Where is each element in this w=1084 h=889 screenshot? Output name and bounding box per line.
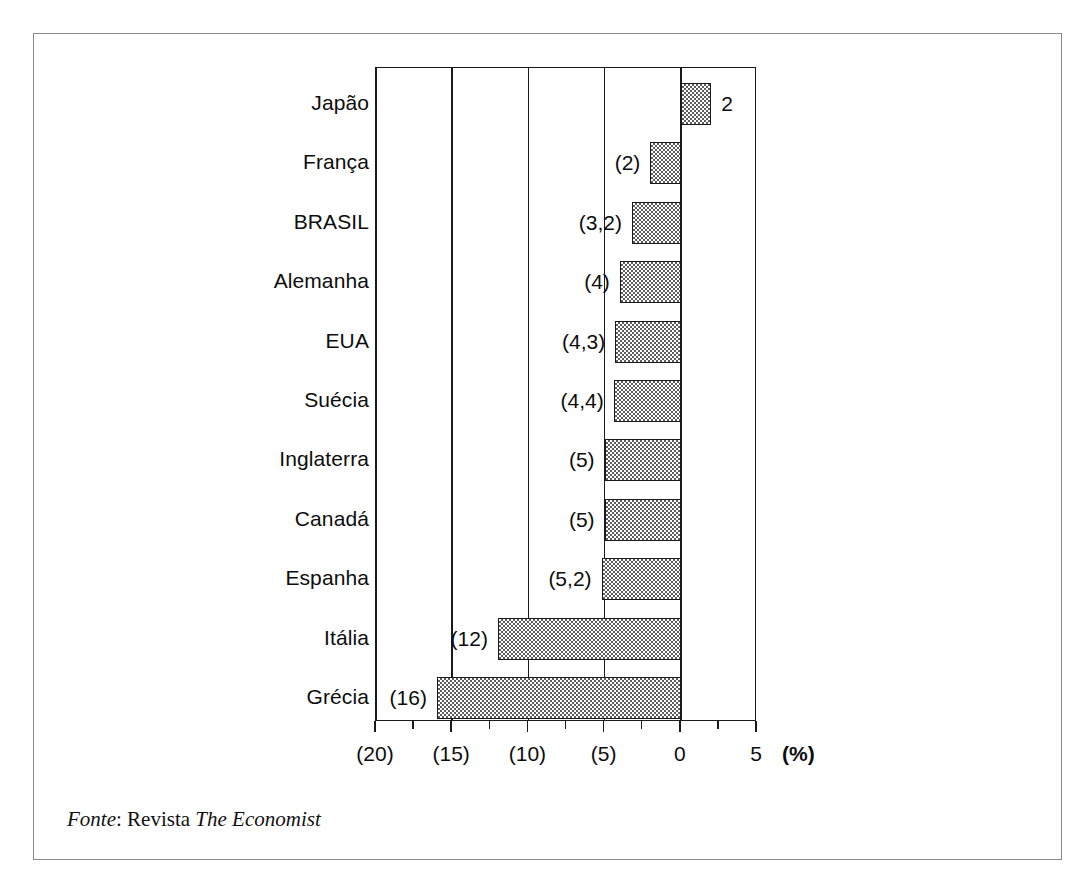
source-publisher: Revista (127, 807, 195, 831)
x-tick-major-20 (374, 721, 376, 732)
x-tick-label-15: (15) (433, 742, 470, 766)
bar-itália (498, 618, 681, 660)
x-tick-minor (489, 721, 491, 729)
x-tick-label-10: (10) (509, 742, 546, 766)
bar-alemanha (620, 261, 681, 303)
x-tick-major-5 (755, 721, 757, 732)
figure-frame: JapãoFrançaBRASILAlemanhaEUASuéciaInglat… (33, 33, 1062, 860)
bar-canadá (605, 499, 681, 541)
bar-eua (615, 321, 681, 363)
x-tick-major-15 (450, 721, 452, 732)
category-label-alemanha: Alemanha (274, 269, 369, 293)
source-separator: : (116, 807, 127, 831)
bar-value-itália: (12) (451, 627, 488, 651)
bar-suécia (614, 380, 681, 422)
x-tick-major-10 (527, 721, 529, 732)
x-tick-label-0: 0 (674, 742, 686, 766)
category-label-brasil: BRASIL (294, 210, 369, 234)
x-tick-minor (565, 721, 567, 729)
gridline-20 (375, 68, 377, 720)
source-label: Fonte (67, 807, 116, 831)
bar-espanha (602, 558, 681, 600)
bar-frança (650, 142, 680, 184)
category-label-frança: França (303, 150, 369, 174)
category-label-inglaterra: Inglaterra (279, 447, 369, 471)
gridline-15 (451, 68, 453, 720)
bar-value-eua: (4,3) (562, 330, 605, 354)
bar-brasil (632, 202, 681, 244)
x-tick-minor (641, 721, 643, 729)
bar-value-suécia: (4,4) (561, 389, 604, 413)
category-axis-labels: JapãoFrançaBRASILAlemanhaEUASuéciaInglat… (34, 34, 369, 861)
bar-grécia (437, 677, 681, 719)
x-tick-label-5: 5 (750, 742, 762, 766)
bar-value-japão: 2 (721, 92, 733, 116)
source-publication: The Economist (195, 807, 320, 831)
bar-value-alemanha: (4) (584, 270, 610, 294)
x-tick-label-20: (20) (356, 742, 393, 766)
category-label-eua: EUA (326, 329, 369, 353)
bar-japão (681, 83, 711, 125)
category-label-canadá: Canadá (295, 507, 369, 531)
x-tick-major-5 (603, 721, 605, 732)
bar-value-canadá: (5) (569, 508, 595, 532)
axis-unit-label: (%) (782, 742, 815, 766)
category-label-suécia: Suécia (304, 388, 369, 412)
category-label-espanha: Espanha (285, 566, 369, 590)
bar-value-espanha: (5,2) (548, 567, 591, 591)
x-tick-major-0 (679, 721, 681, 732)
category-label-japão: Japão (311, 91, 369, 115)
bar-value-frança: (2) (615, 151, 641, 175)
bar-inglaterra (605, 439, 681, 481)
bar-value-grécia: (16) (390, 686, 427, 710)
x-tick-minor (717, 721, 719, 729)
plot-area: 2(2)(3,2)(4)(4,3)(4,4)(5)(5)(5,2)(12)(16… (375, 67, 756, 721)
x-tick-minor (412, 721, 414, 729)
source-note: Fonte: Revista The Economist (67, 807, 321, 832)
x-tick-label-5: (5) (591, 742, 617, 766)
bar-value-inglaterra: (5) (569, 448, 595, 472)
category-label-grécia: Grécia (307, 685, 369, 709)
bar-value-brasil: (3,2) (579, 211, 622, 235)
category-label-itália: Itália (324, 626, 369, 650)
